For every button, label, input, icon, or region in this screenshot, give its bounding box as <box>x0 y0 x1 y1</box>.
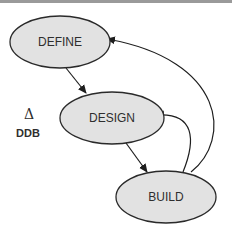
process-diagram: DEFINE DESIGN BUILD Δ DDB <box>0 0 232 235</box>
delta-symbol: Δ <box>24 106 34 122</box>
node-design: DESIGN <box>60 92 164 144</box>
define-label: DEFINE <box>38 35 82 49</box>
node-define: DEFINE <box>10 16 110 68</box>
ddb-label: DDB <box>16 127 40 139</box>
edge-design-to-build <box>126 143 147 172</box>
node-build: BUILD <box>116 171 216 223</box>
edge-define-to-design <box>66 68 86 93</box>
design-label: DESIGN <box>89 111 135 125</box>
build-label: BUILD <box>148 190 184 204</box>
